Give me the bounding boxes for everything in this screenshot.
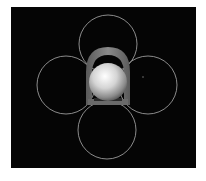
figure-canvas [0,0,206,181]
circle-bottom [78,101,136,159]
sphere [89,63,127,101]
dot-marker [142,76,144,78]
